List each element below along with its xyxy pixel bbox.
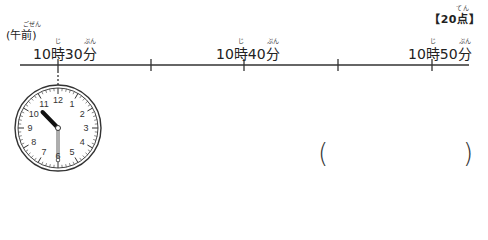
analog-clock: 121234567891011 [15, 85, 101, 171]
clock-number: 2 [80, 109, 85, 119]
clock-number: 4 [80, 137, 85, 147]
clock-number: 5 [69, 147, 74, 157]
clock-number: 11 [39, 99, 48, 109]
answer-paren-close: ) [463, 138, 473, 168]
clock-number: 8 [31, 137, 36, 147]
clock-number: 12 [53, 95, 63, 105]
clock-number: 10 [29, 109, 39, 119]
clock-number: 9 [27, 123, 32, 133]
timeline [20, 59, 469, 85]
clock-number: 1 [69, 99, 74, 109]
clock-number: 7 [41, 147, 46, 157]
clock-number: 3 [83, 123, 88, 133]
answer-field[interactable] [335, 140, 460, 172]
answer-paren-open: ( [318, 138, 328, 168]
